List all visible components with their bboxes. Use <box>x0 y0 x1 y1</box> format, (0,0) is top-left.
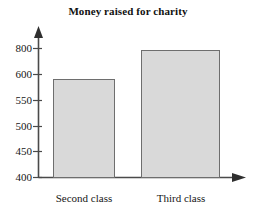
bar-third-class <box>141 50 220 178</box>
y-tick-label-500: 500 <box>2 121 32 132</box>
y-tick-label-450: 450 <box>2 146 32 157</box>
plot-area: 800 600 550 500 450 400 Second class Thi… <box>0 0 256 220</box>
bar-second-class <box>53 79 115 178</box>
y-axis-tick-labels: 800 600 550 500 450 400 <box>0 0 32 220</box>
y-tick-label-800: 800 <box>2 43 32 54</box>
x-axis-label-third-class: Third class <box>140 192 222 204</box>
y-tick-label-600: 600 <box>2 69 32 80</box>
x-axis-label-second-class: Second class <box>36 192 132 204</box>
y-tick-label-550: 550 <box>2 95 32 106</box>
y-tick-label-400: 400 <box>2 172 32 183</box>
y-axis-arrow-icon <box>34 26 43 38</box>
chart-figure: Money raised for charity 800 600 550 50 <box>0 0 256 220</box>
x-axis-arrow-icon <box>232 173 246 182</box>
